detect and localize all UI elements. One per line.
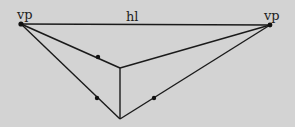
vp-right-label: vp [263,8,280,23]
horizon-line [21,24,270,25]
diagram-svg: vp hl vp [0,0,295,127]
line-vpl-to-bottom [21,24,120,119]
line-vpr-to-top [120,25,270,68]
marker-left-upper [96,55,100,59]
line-vpr-to-bottom [120,25,270,119]
horizon-label: hl [126,9,139,24]
line-vpl-to-top [21,24,120,68]
vp-left-dot [18,21,23,26]
marker-right-lower [152,96,156,100]
vp-left-label: vp [16,7,33,22]
vp-right-dot [268,23,273,28]
perspective-diagram: vp hl vp [0,0,295,127]
marker-left-lower [95,96,99,100]
